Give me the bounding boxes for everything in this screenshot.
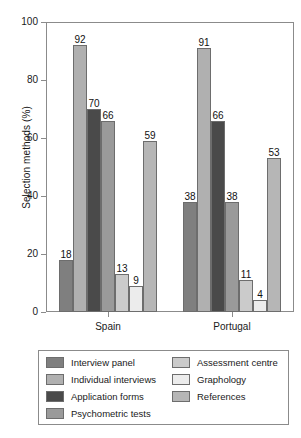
x-axis-tick bbox=[232, 312, 233, 317]
bar-slot: 9 bbox=[129, 22, 143, 312]
legend-swatch bbox=[46, 391, 64, 402]
bar-value-label: 91 bbox=[198, 38, 209, 48]
y-axis-tick-label: 100 bbox=[21, 17, 38, 27]
y-axis-tick-label: 80 bbox=[27, 75, 38, 85]
bar[interactable]: 66 bbox=[211, 121, 225, 312]
bar-slot: 66 bbox=[211, 22, 225, 312]
bar[interactable]: 13 bbox=[115, 274, 129, 312]
y-axis-tick bbox=[41, 254, 46, 255]
legend-item[interactable]: Individual interviews bbox=[46, 373, 172, 385]
legend-item-label: Interview panel bbox=[71, 357, 135, 368]
plot-area: 0204060801001892706613959Spain3891663811… bbox=[46, 22, 294, 312]
bar-slot: 38 bbox=[183, 22, 197, 312]
bar-slot: 11 bbox=[239, 22, 253, 312]
y-axis-title: Selection methods (%) bbox=[21, 88, 32, 228]
legend-column-left: Interview panelIndividual interviewsAppl… bbox=[46, 356, 172, 419]
bar-value-label: 9 bbox=[133, 276, 139, 286]
legend: Interview panelIndividual interviewsAppl… bbox=[38, 350, 289, 425]
bar-value-label: 53 bbox=[268, 148, 279, 158]
bar-value-label: 4 bbox=[257, 290, 263, 300]
bar-group: 3891663811453Portugal bbox=[183, 22, 281, 312]
bar[interactable]: 59 bbox=[143, 141, 157, 312]
bar[interactable]: 18 bbox=[59, 260, 73, 312]
y-axis-tick bbox=[41, 196, 46, 197]
legend-item-label: Individual interviews bbox=[71, 374, 156, 385]
bar-value-label: 92 bbox=[74, 35, 85, 45]
bar-slot: 53 bbox=[267, 22, 281, 312]
bar-value-label: 66 bbox=[212, 111, 223, 121]
bar-group: 1892706613959Spain bbox=[59, 22, 157, 312]
bar-group-bars: 1892706613959 bbox=[59, 22, 157, 312]
bar[interactable]: 66 bbox=[101, 121, 115, 312]
bar[interactable]: 38 bbox=[225, 202, 239, 312]
bar-value-label: 66 bbox=[102, 111, 113, 121]
y-axis-tick-label: 60 bbox=[27, 133, 38, 143]
bar[interactable]: 53 bbox=[267, 158, 281, 312]
bar[interactable]: 11 bbox=[239, 280, 253, 312]
legend-item[interactable]: Assessment centre bbox=[172, 356, 284, 368]
bar[interactable]: 9 bbox=[129, 286, 143, 312]
x-axis-category-label: Spain bbox=[95, 321, 121, 332]
legend-item-label: Psychometric tests bbox=[71, 408, 151, 419]
bar[interactable]: 38 bbox=[183, 202, 197, 312]
legend-swatch bbox=[46, 357, 64, 368]
y-axis-tick-label: 40 bbox=[27, 191, 38, 201]
legend-item[interactable]: Graphology bbox=[172, 373, 284, 385]
bar[interactable]: 4 bbox=[253, 300, 267, 312]
bar-slot: 92 bbox=[73, 22, 87, 312]
bar[interactable]: 92 bbox=[73, 45, 87, 312]
legend-item-label: References bbox=[197, 391, 246, 402]
legend-swatch bbox=[172, 374, 190, 385]
bar-value-label: 18 bbox=[60, 250, 71, 260]
legend-column-right: Assessment centreGraphologyReferences bbox=[172, 356, 284, 419]
legend-item[interactable]: Application forms bbox=[46, 390, 172, 402]
y-axis-tick bbox=[41, 312, 46, 313]
y-axis-tick bbox=[41, 138, 46, 139]
bar-slot: 66 bbox=[101, 22, 115, 312]
bar-slot: 91 bbox=[197, 22, 211, 312]
chart-page: Selection methods (%) 020406080100189270… bbox=[0, 0, 301, 438]
bar-value-label: 11 bbox=[241, 270, 251, 280]
y-axis-tick bbox=[41, 22, 46, 23]
bar-slot: 4 bbox=[253, 22, 267, 312]
y-axis-tick-label: 20 bbox=[27, 249, 38, 259]
legend-swatch bbox=[46, 374, 64, 385]
bar-value-label: 59 bbox=[144, 131, 155, 141]
bar-value-label: 13 bbox=[116, 264, 127, 274]
legend-swatch bbox=[46, 408, 64, 419]
legend-item-label: Graphology bbox=[197, 374, 246, 385]
bar-value-label: 38 bbox=[226, 192, 237, 202]
y-axis-tick-label: 0 bbox=[32, 307, 38, 317]
legend-item-label: Assessment centre bbox=[197, 357, 278, 368]
bar-slot: 70 bbox=[87, 22, 101, 312]
bar-value-label: 38 bbox=[184, 192, 195, 202]
legend-item[interactable]: Interview panel bbox=[46, 356, 172, 368]
legend-swatch bbox=[172, 391, 190, 402]
bar-value-label: 70 bbox=[88, 99, 99, 109]
bar-slot: 38 bbox=[225, 22, 239, 312]
bar[interactable]: 70 bbox=[87, 109, 101, 312]
plot-inner: 0204060801001892706613959Spain3891663811… bbox=[46, 22, 294, 312]
legend-item[interactable]: References bbox=[172, 390, 284, 402]
x-axis-category-label: Portugal bbox=[213, 321, 250, 332]
bar-slot: 59 bbox=[143, 22, 157, 312]
legend-item-label: Application forms bbox=[71, 391, 144, 402]
y-axis-tick bbox=[41, 80, 46, 81]
legend-swatch bbox=[172, 357, 190, 368]
legend-item[interactable]: Psychometric tests bbox=[46, 407, 172, 419]
bar-group-bars: 3891663811453 bbox=[183, 22, 281, 312]
x-axis-tick bbox=[108, 312, 109, 317]
bar[interactable]: 91 bbox=[197, 48, 211, 312]
bar-slot: 18 bbox=[59, 22, 73, 312]
bar-slot: 13 bbox=[115, 22, 129, 312]
